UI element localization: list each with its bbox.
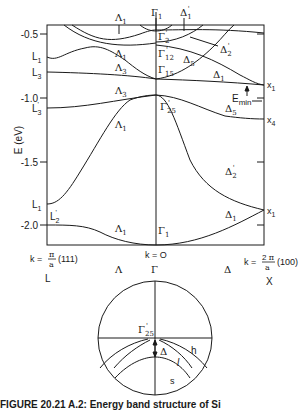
k-label-right: k =	[244, 257, 256, 267]
band-delta1prime	[156, 30, 264, 33]
direction-delta: Δ	[224, 264, 231, 275]
label-Emin: Emin	[232, 93, 252, 107]
label-delta5: Δ5	[225, 103, 237, 117]
label-lambda1: Λ1	[114, 223, 127, 237]
label-X4: x4	[267, 115, 276, 127]
inset-label-h: h	[191, 345, 197, 356]
label-X1-lower: x1	[267, 206, 276, 218]
y-tick-label: -0.5	[21, 29, 39, 40]
label-L1-lower: L1	[32, 199, 42, 212]
band-delta1-mid	[156, 79, 264, 85]
label-lambda1: Λ1	[114, 48, 127, 62]
band-L3	[47, 72, 156, 79]
point-X: X	[266, 276, 273, 287]
k-label-center: k = O	[145, 250, 167, 260]
label-L3prime: L3'	[32, 101, 42, 116]
label-lambda1: Λ1	[114, 119, 127, 133]
label-L1-upper: L1	[32, 51, 42, 64]
svg-text:2 π: 2 π	[262, 253, 274, 262]
point-gamma: Γ	[151, 264, 158, 275]
label-gamma1-bottom: Γ1	[158, 225, 169, 239]
label-gamma12prime: Γ12'	[158, 46, 174, 62]
y-tick-label: -2.0	[21, 220, 39, 231]
label-X1-upper: x1	[267, 80, 276, 92]
band-delta1-lower	[156, 210, 264, 245]
label-lambda1: Λ1	[114, 12, 127, 26]
label-delta2prime: Δ2'	[225, 164, 237, 180]
point-L: L	[45, 273, 51, 284]
band-lambda1-top-a	[64, 25, 156, 45]
k-label-left: k =	[30, 254, 42, 264]
band-lambda1-lower	[47, 95, 156, 204]
inset-label-s: s	[170, 376, 175, 386]
band-structure-diagram: -0.5 -1.0 -1.5 -2.0 E (eV) L1 L3 L3' L1 …	[0, 0, 307, 410]
label-L2prime: L2'	[50, 209, 60, 224]
label-L3: L3	[32, 67, 42, 80]
band-L2prime	[47, 225, 156, 245]
inset-gamma25prime: Γ25'	[138, 322, 154, 338]
svg-text:(100): (100)	[277, 257, 298, 267]
label-gamma1-top: Γ1	[151, 7, 162, 21]
label-lambda3: Λ3	[114, 62, 127, 76]
direction-lambda: Λ	[114, 264, 123, 275]
label-delta2prime: Δ2'	[220, 42, 232, 58]
svg-text:a: a	[265, 263, 270, 272]
band-delta5-upper	[156, 45, 264, 85]
svg-text:π: π	[49, 250, 54, 259]
label-gamma2prime: Γ2'	[158, 29, 169, 45]
label-gamma15: Γ15	[158, 64, 174, 78]
svg-text:a: a	[49, 260, 54, 269]
y-axis-label: E (eV)	[13, 126, 24, 154]
label-delta1prime: Δ1'	[180, 5, 192, 21]
svg-text:(111): (111)	[58, 254, 78, 264]
y-tick-label: -1.5	[21, 157, 39, 168]
figure-caption: FIGURE 20.21 A.2: Energy band structure …	[0, 399, 221, 410]
label-delta1: Δ1	[213, 69, 225, 83]
label-lambda3: Λ3	[114, 85, 127, 99]
label-gamma25prime: Γ25'	[160, 99, 176, 115]
inset-gap-delta: Δ	[160, 346, 167, 357]
label-delta1: Δ1	[225, 209, 237, 223]
